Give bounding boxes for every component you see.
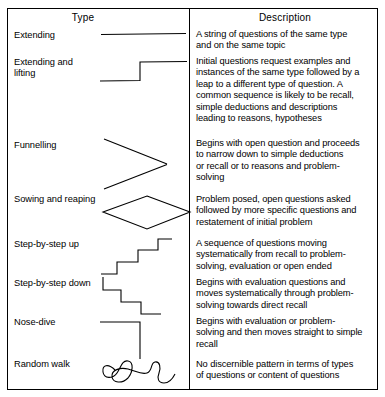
description-line: solving [196,172,376,183]
type-line: Extending [14,30,134,41]
description-line: restatement of initial problem [196,217,376,228]
description-line: or recall or to reasons and problem- [196,161,376,172]
type-label-funnelling: Funnelling [14,140,134,151]
type-label-step-by-step-up: Step-by-step up [14,239,134,250]
description-funnelling: Begins with open question and proceeds t… [196,138,376,184]
description-line: instances of the same type followed by a [196,67,376,78]
description-line: moves systematically through problem- [196,288,376,299]
description-line: common sequence is likely to be recall, [196,90,376,101]
type-line: Step-by-step down [14,278,134,289]
description-line: solving, evaluation or open ended [196,261,376,272]
description-line: followed by more specific questions and [196,205,376,216]
description-sowing-and-reaping: Problem posed, open questions asked foll… [196,194,376,228]
type-label-nose-dive: Nose-dive [14,317,134,328]
type-label-step-by-step-down: Step-by-step down [14,278,134,289]
description-step-by-step-up: A sequence of questions moving systemati… [196,238,376,272]
description-line: leading to reasons, hypotheses [196,113,376,124]
description-extending-and-lifting: Initial questions request examples and i… [196,56,376,124]
description-line: Begins with evaluation questions and [196,277,376,288]
description-line: of questions or content of questions [196,370,376,381]
type-label-random-walk: Random walk [14,359,134,370]
description-line: Begins with open question and proceeds [196,138,376,149]
description-line: Initial questions request examples and [196,56,376,67]
type-line: Random walk [14,359,134,370]
description-line: Problem posed, open questions asked [196,194,376,205]
description-random-walk: No discernible pattern in terms of types… [196,359,376,382]
questioning-sequences-figure: Type Description Extending Extending and… [0,0,385,397]
type-line: Extending and [14,57,134,68]
type-line: Step-by-step up [14,239,134,250]
description-extending: A string of questions of the same type a… [196,29,376,52]
description-line: No discernible pattern in terms of types [196,359,376,370]
description-line: Begins with evaluation or problem- [196,316,376,327]
description-line: solving towards direct recall [196,300,376,311]
description-line: recall [196,339,376,350]
description-step-by-step-down: Begins with evaluation questions and mov… [196,277,376,311]
description-line: to narrow down to simple deductions [196,149,376,160]
type-line: Funnelling [14,140,134,151]
type-label-extending: Extending [14,30,134,41]
description-line: and on the same topic [196,40,376,51]
type-line: Nose-dive [14,317,134,328]
column-header-type: Type [8,12,158,23]
description-line: systematically from recall to problem- [196,249,376,260]
type-label-extending-and-lifting: Extending and lifting [14,57,134,79]
description-line: A string of questions of the same type [196,29,376,40]
description-line: solving and then moves straight to simpl… [196,327,376,338]
description-nose-dive: Begins with evaluation or problem- solvi… [196,316,376,350]
description-line: leap to a different type of question. A [196,79,376,90]
type-line: Sowing and reaping [14,194,134,205]
type-line: lifting [14,68,134,79]
column-divider [189,8,190,390]
description-line: A sequence of questions moving [196,238,376,249]
type-label-sowing-and-reaping: Sowing and reaping [14,194,134,205]
column-header-description: Description [192,12,378,23]
description-line: simple deductions and descriptions [196,102,376,113]
